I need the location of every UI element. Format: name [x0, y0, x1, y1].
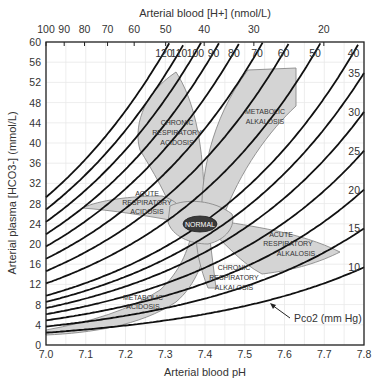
label-chronic-resp-alkalosis-1: CHRONIC: [218, 264, 251, 271]
isopleth-label: 100: [187, 47, 205, 59]
label-chronic-resp-alkalosis-3: ALKALOSIS: [215, 284, 254, 291]
label-metabolic-alkalosis-1: METABOLIC: [245, 108, 285, 115]
y-tick-label: 28: [29, 198, 41, 210]
isopleth-label: 40: [348, 47, 360, 59]
x-axis-title: Arterial blood pH: [164, 366, 246, 378]
isopleth-label: 70: [251, 47, 263, 59]
top-tick-label: 90: [58, 23, 70, 35]
pco2-arrow: [272, 305, 290, 318]
label-chronic-resp-alkalosis-2: RESPIRATORY: [209, 274, 259, 281]
label-acute-resp-alkalosis-3: ALKALOSIS: [277, 250, 316, 257]
isopleth-label: 110: [171, 47, 188, 59]
arrowhead-icon: [270, 303, 276, 309]
y-tick-label: 20: [29, 238, 41, 250]
y-tick-label: 16: [29, 258, 41, 270]
y-axis-title: Arterial plasma [HCO3-] (mmol/L): [6, 111, 18, 274]
label-acute-resp-acidosis-2: RESPIRATORY: [122, 199, 172, 206]
top-tick-label: 40: [198, 23, 210, 35]
top-tick-label: 50: [160, 23, 172, 35]
x-tick-label: 7.8: [357, 348, 372, 360]
x-axis-ticks: 7.07.17.27.37.47.57.67.77.8: [39, 348, 372, 360]
y-tick-label: 40: [29, 137, 41, 149]
x-tick-label: 7.5: [237, 348, 252, 360]
label-metabolic-acidosis-2: ACIDOSIS: [126, 303, 160, 310]
isopleth-label: 20: [348, 184, 360, 196]
x-tick-label: 7.7: [317, 348, 332, 360]
x-tick-label: 7.6: [277, 348, 292, 360]
normal-marker: NORMAL: [183, 216, 217, 232]
isopleth-label: 90: [208, 47, 220, 59]
y-tick-label: 36: [29, 157, 41, 169]
y-tick-label: 24: [29, 218, 41, 230]
y-tick-label: 0: [35, 339, 41, 351]
label-metabolic-alkalosis-2: ALKALOSIS: [246, 118, 285, 125]
isopleth-label: 25: [348, 145, 360, 157]
x-tick-label: 7.3: [158, 348, 173, 360]
acid-base-nomogram: NORMAL CHRONIC RESPIRATORY ACIDOSIS META…: [0, 0, 377, 382]
isopleth-label: 60: [278, 47, 290, 59]
y-tick-label: 8: [35, 299, 41, 311]
label-chronic-resp-acidosis-2: RESPIRATORY: [152, 129, 202, 136]
y-tick-label: 60: [29, 36, 41, 48]
pco2-annotation: Pco2 (mm Hg): [270, 303, 362, 324]
isopleth-label: 80: [228, 47, 240, 59]
label-acute-resp-acidosis-1: ACUTE: [135, 190, 159, 197]
label-chronic-resp-acidosis-3: ACIDOSIS: [160, 139, 194, 146]
isopleth-label: 30: [348, 106, 360, 118]
y-tick-label: 12: [29, 278, 41, 290]
top-tick-label: 30: [248, 23, 260, 35]
top-tick-label: 60: [128, 23, 140, 35]
top-axis-title: Arterial blood [H+] (nmol/L): [139, 7, 271, 19]
label-acute-resp-alkalosis-2: RESPIRATORY: [263, 240, 313, 247]
label-metabolic-acidosis-1: METABOLIC: [123, 294, 163, 301]
y-tick-label: 4: [35, 319, 41, 331]
label-acute-resp-acidosis-3: ACIDOSIS: [130, 208, 164, 215]
isopleth-label: 10: [348, 261, 360, 273]
top-tick-label: 70: [102, 23, 114, 35]
y-axis-ticks: 04812162024283236404448525660: [29, 36, 41, 351]
y-tick-label: 52: [29, 76, 41, 88]
y-tick-label: 32: [29, 177, 41, 189]
region-metabolic-alkalosis: [202, 68, 296, 220]
y-tick-label: 56: [29, 56, 41, 68]
top-tick-label: 100: [37, 23, 55, 35]
normal-label: NORMAL: [185, 221, 215, 228]
top-tick-label: 80: [79, 23, 91, 35]
pco2-label: Pco2 (mm Hg): [294, 312, 362, 324]
x-tick-label: 7.4: [198, 348, 213, 360]
y-tick-label: 48: [29, 97, 41, 109]
isopleth-label: 35: [348, 67, 360, 79]
label-acute-resp-alkalosis-1: ACUTE: [269, 231, 293, 238]
x-tick-label: 7.2: [118, 348, 133, 360]
y-tick-label: 44: [29, 117, 41, 129]
isopleth-label: 15: [348, 222, 360, 234]
x-tick-label: 7.1: [78, 348, 93, 360]
isopleth-label: 50: [309, 47, 321, 59]
label-chronic-resp-acidosis-1: CHRONIC: [161, 119, 194, 126]
top-tick-label: 20: [318, 23, 330, 35]
